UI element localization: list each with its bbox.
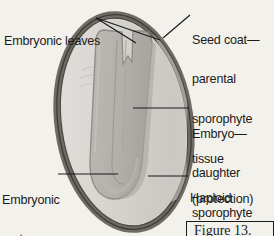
- seed-diagram-figure: Embryonic leaves Seed coat— parental spo…: [0, 0, 274, 236]
- label-embryonic-leaves: Embryonic leaves: [4, 8, 100, 74]
- label-embryonic-root-line-1: root: [2, 233, 60, 236]
- figure-caption-text: Figure 13.: [194, 223, 252, 236]
- label-embryo-line-0: Embryo—: [192, 128, 252, 141]
- figure-caption-box: Figure 13.: [186, 221, 274, 236]
- label-seed-coat-line-0: Seed coat—: [192, 34, 259, 47]
- label-embryonic-root-line-0: Embryonic: [2, 194, 60, 207]
- leader-seed-coat: [163, 15, 190, 38]
- label-haploid-gametophyte-line-0: Haploid: [190, 192, 261, 205]
- label-seed-coat-line-1: parental: [192, 73, 259, 86]
- label-embryonic-leaves-line-0: Embryonic leaves: [4, 35, 100, 48]
- label-embryonic-root: Embryonic root: [2, 167, 60, 236]
